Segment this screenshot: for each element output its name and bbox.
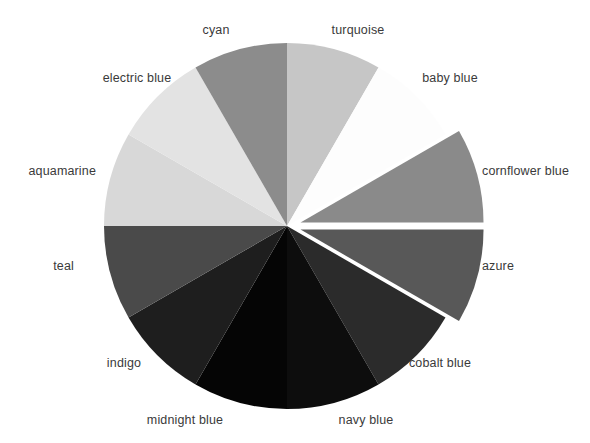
pie-label-cobalt-blue: cobalt blue (409, 357, 471, 370)
pie-label-cyan: cyan (202, 24, 229, 37)
pie-label-navy-blue: navy blue (339, 414, 394, 427)
pie-chart (0, 0, 590, 443)
pie-label-azure: azure (482, 260, 514, 273)
pie-slice-group (104, 43, 484, 409)
pie-label-turquoise: turquoise (332, 24, 385, 37)
pie-label-indigo: indigo (107, 357, 141, 370)
pie-label-electric-blue: electric blue (103, 72, 172, 85)
pie-label-aquamarine: aquamarine (28, 165, 96, 178)
chart-canvas: turquoisebaby bluecornflower blueazureco… (0, 0, 590, 443)
pie-label-teal: teal (53, 260, 74, 273)
pie-label-cornflower-blue: cornflower blue (482, 165, 569, 178)
pie-label-midnight-blue: midnight blue (147, 414, 223, 427)
pie-label-baby-blue: baby blue (422, 72, 478, 85)
